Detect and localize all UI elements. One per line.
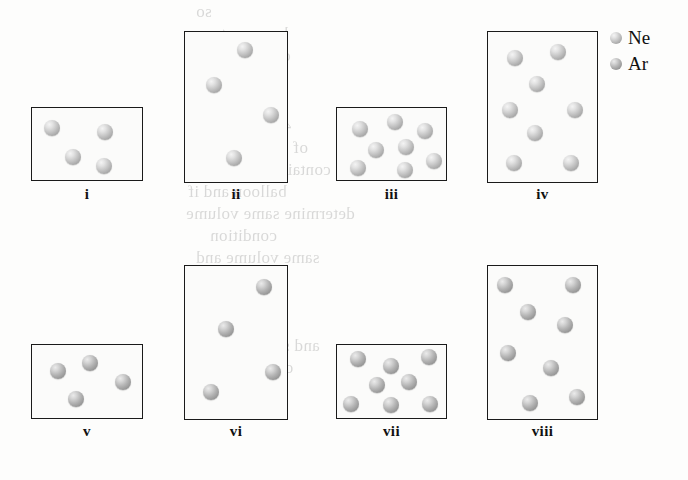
- particle-ar-viii-4: [557, 317, 573, 333]
- particle-ar-v-1: [50, 363, 66, 379]
- container-label-vii: vii: [336, 423, 447, 440]
- particle-ne-iv-2: [550, 44, 566, 60]
- legend-item-ne: Ne: [610, 28, 650, 47]
- ar-swatch-icon: [610, 58, 622, 70]
- particle-ne-iv-7: [506, 155, 522, 171]
- particle-ar-vii-2: [383, 358, 399, 374]
- particle-ar-vi-4: [203, 384, 219, 400]
- particle-ne-iv-6: [527, 125, 543, 141]
- particle-ar-vii-4: [369, 377, 385, 393]
- particle-ar-vii-7: [383, 397, 399, 413]
- ne-swatch-icon: [610, 32, 622, 44]
- particle-ar-vii-8: [422, 396, 438, 412]
- legend-label-ne: Ne: [628, 28, 650, 47]
- particle-ne-ii-2: [206, 77, 222, 93]
- legend: NeAr: [610, 28, 680, 84]
- particle-ar-viii-7: [522, 395, 538, 411]
- particle-ar-v-2: [82, 355, 98, 371]
- legend-label-ar: Ar: [628, 54, 648, 73]
- particle-ar-vi-3: [265, 364, 281, 380]
- particle-ar-viii-1: [497, 277, 513, 293]
- particle-ar-v-4: [68, 391, 84, 407]
- particle-ne-iv-3: [529, 76, 545, 92]
- particle-ar-viii-2: [565, 277, 581, 293]
- particle-ne-iv-8: [563, 155, 579, 171]
- particle-ne-iii-2: [387, 114, 403, 130]
- gas-container-figure: iiiiiiivvviviiviii: [0, 0, 688, 480]
- legend-item-ar: Ar: [610, 54, 648, 73]
- particle-ne-ii-1: [237, 42, 253, 58]
- particle-ne-iii-1: [352, 121, 368, 137]
- particle-ar-vi-1: [256, 279, 272, 295]
- container-box-vi: [184, 265, 288, 420]
- particle-ar-viii-3: [520, 304, 536, 320]
- particle-ne-iii-5: [398, 139, 414, 155]
- particle-ar-vii-3: [421, 349, 437, 365]
- particle-ar-vii-6: [343, 396, 359, 412]
- container-label-viii: viii: [487, 423, 598, 440]
- particle-ar-v-3: [115, 374, 131, 390]
- particle-ne-iv-5: [567, 102, 583, 118]
- container-label-vi: vi: [184, 423, 288, 440]
- particle-ar-viii-5: [500, 345, 516, 361]
- particle-ne-i-1: [44, 120, 60, 136]
- particle-ar-viii-8: [569, 389, 585, 405]
- particle-ne-iv-4: [502, 102, 518, 118]
- container-box-i: [31, 107, 143, 181]
- particle-ne-iv-1: [507, 50, 523, 66]
- particle-ne-i-3: [65, 149, 81, 165]
- particle-ne-iii-6: [426, 153, 442, 169]
- container-label-ii: ii: [184, 186, 288, 203]
- particle-ne-iii-7: [350, 160, 366, 176]
- particle-ne-i-4: [96, 158, 112, 174]
- particle-ne-iii-8: [397, 162, 413, 178]
- particle-ne-iii-4: [368, 142, 384, 158]
- particle-ar-vii-5: [401, 374, 417, 390]
- particle-ar-vii-1: [350, 351, 366, 367]
- particle-ar-viii-6: [543, 360, 559, 376]
- container-label-iii: iii: [336, 186, 447, 203]
- particle-ne-i-2: [97, 124, 113, 140]
- container-label-iv: iv: [487, 186, 598, 203]
- container-label-v: v: [31, 423, 143, 440]
- particle-ar-vi-2: [218, 321, 234, 337]
- particle-ne-ii-3: [263, 107, 279, 123]
- particle-ne-iii-3: [417, 123, 433, 139]
- particle-ne-ii-4: [226, 150, 242, 166]
- container-label-i: i: [31, 186, 143, 203]
